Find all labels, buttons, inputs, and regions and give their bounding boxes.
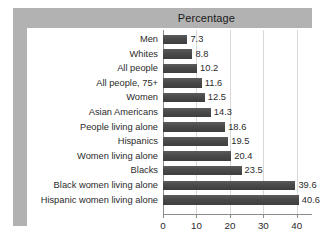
category-label: Hispanics bbox=[0, 134, 158, 149]
category-label: Men bbox=[0, 32, 158, 47]
x-tick-mark bbox=[230, 214, 231, 218]
category-label: Hispanic women living alone bbox=[0, 193, 158, 208]
bar-row: All people10.2 bbox=[0, 61, 327, 76]
bar-row: Hispanic women living alone40.6 bbox=[0, 193, 327, 208]
value-label: 18.6 bbox=[228, 120, 246, 135]
x-tick-mark bbox=[297, 214, 298, 218]
category-label: Women bbox=[0, 90, 158, 105]
x-tick-label: 20 bbox=[215, 220, 245, 231]
bar bbox=[163, 122, 225, 131]
chart-title: Percentage bbox=[13, 8, 235, 28]
x-tick-label: 30 bbox=[248, 220, 278, 231]
bar bbox=[163, 49, 192, 58]
x-tick-label: 10 bbox=[181, 220, 211, 231]
bar-row: All people, 75+11.6 bbox=[0, 76, 327, 91]
value-label: 10.2 bbox=[200, 61, 218, 76]
value-label: 40.6 bbox=[302, 193, 320, 208]
value-label: 11.6 bbox=[205, 76, 222, 91]
bar bbox=[163, 195, 299, 204]
category-label: People living alone bbox=[0, 120, 158, 135]
percentage-bar-chart: Percentage Men7.3Whites8.8All people10.2… bbox=[0, 0, 327, 249]
x-tick-label: 0 bbox=[148, 220, 178, 231]
value-label: 23.5 bbox=[245, 163, 263, 178]
x-axis-rule bbox=[163, 214, 312, 215]
bar bbox=[163, 108, 211, 117]
bar-row: People living alone18.6 bbox=[0, 120, 327, 135]
category-label: Women living alone bbox=[0, 149, 158, 164]
bar bbox=[163, 93, 205, 102]
category-label: Whites bbox=[0, 47, 158, 62]
category-label: All people, 75+ bbox=[0, 76, 158, 91]
x-tick-mark bbox=[263, 214, 264, 218]
chart-title-band: Percentage bbox=[13, 8, 312, 28]
bar-row: Hispanics19.5 bbox=[0, 134, 327, 149]
bar-row: Black women living alone39.6 bbox=[0, 178, 327, 193]
bar-rows: Men7.3Whites8.8All people10.2All people,… bbox=[0, 30, 327, 214]
bar-row: Asian Americans14.3 bbox=[0, 105, 327, 120]
value-label: 8.8 bbox=[195, 47, 208, 62]
value-label: 19.5 bbox=[231, 134, 249, 149]
x-tick-label: 40 bbox=[282, 220, 312, 231]
x-tick-mark bbox=[163, 214, 164, 218]
value-label: 12.5 bbox=[208, 90, 226, 105]
category-label: Blacks bbox=[0, 163, 158, 178]
value-label: 14.3 bbox=[214, 105, 232, 120]
bar-row: Whites8.8 bbox=[0, 47, 327, 62]
value-label: 39.6 bbox=[298, 178, 316, 193]
bar-row: Women living alone20.4 bbox=[0, 149, 327, 164]
plot-area: Men7.3Whites8.8All people10.2All people,… bbox=[0, 30, 327, 249]
bar bbox=[163, 181, 295, 190]
bar-row: Women12.5 bbox=[0, 90, 327, 105]
bar bbox=[163, 151, 231, 160]
category-label: All people bbox=[0, 61, 158, 76]
category-label: Black women living alone bbox=[0, 178, 158, 193]
value-label: 20.4 bbox=[234, 149, 252, 164]
bar-row: Men7.3 bbox=[0, 32, 327, 47]
bar-row: Blacks23.5 bbox=[0, 163, 327, 178]
bar bbox=[163, 137, 228, 146]
bar bbox=[163, 166, 242, 175]
category-label: Asian Americans bbox=[0, 105, 158, 120]
bar bbox=[163, 78, 202, 87]
x-tick-mark bbox=[196, 214, 197, 218]
x-axis: 010203040 bbox=[0, 214, 327, 249]
bar bbox=[163, 64, 197, 73]
bar bbox=[163, 35, 187, 44]
value-label: 7.3 bbox=[190, 32, 203, 47]
